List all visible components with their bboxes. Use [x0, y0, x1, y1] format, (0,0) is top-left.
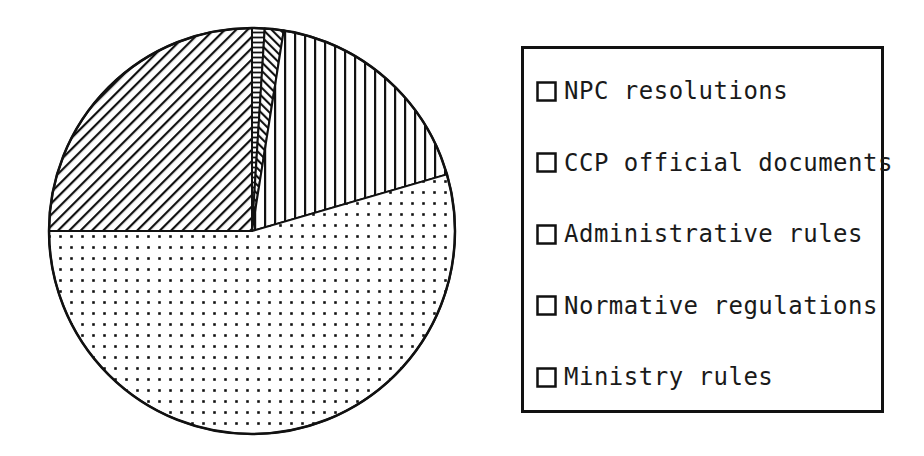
legend-item-ministry-rules: Ministry rules	[536, 363, 773, 391]
legend-item-normative-regulations: Normative regulations	[536, 292, 878, 320]
legend-swatch-horizontal-lines-icon	[536, 81, 557, 102]
legend-label-normative-regulations: Normative regulations	[564, 292, 878, 320]
legend-swatch-slash-hatch-icon	[536, 367, 557, 388]
legend-label-ministry-rules: Ministry rules	[564, 363, 773, 391]
legend-label-administrative-rules: Administrative rules	[564, 220, 863, 248]
legend-box: NPC resolutions CCP official documents A…	[521, 46, 884, 413]
legend-swatch-vertical-lines-icon	[536, 224, 557, 245]
legend-swatch-dots-icon	[536, 295, 557, 316]
legend-swatch-backslash-hatch-icon	[536, 152, 557, 173]
legend-item-administrative-rules: Administrative rules	[536, 220, 863, 248]
legend-label-npc-resolutions: NPC resolutions	[564, 77, 788, 105]
legend-label-ccp-official-documents: CCP official documents	[564, 149, 893, 177]
pie-slice-ministry-rules	[49, 28, 252, 231]
figure-canvas: NPC resolutions CCP official documents A…	[0, 0, 924, 456]
legend-item-ccp-official-documents: CCP official documents	[536, 149, 893, 177]
legend-item-npc-resolutions: NPC resolutions	[536, 77, 788, 105]
pie-chart	[0, 0, 470, 456]
